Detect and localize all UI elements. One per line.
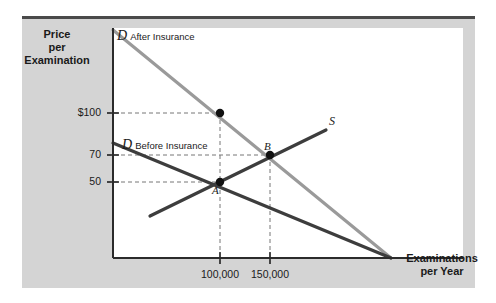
demand-after-caption: After Insurance: [127, 31, 194, 42]
demand-before-caption: Before Insurance: [132, 140, 207, 151]
y-tick-label-100: $100: [59, 106, 101, 118]
x-axis-title-line-2: per Year: [392, 265, 492, 278]
y-tick-label-70: 70: [59, 148, 101, 160]
y-axis-title: Price per Examination: [6, 28, 108, 67]
demand-before-symbol: D: [122, 137, 132, 152]
supply-curve-label: S: [329, 114, 335, 129]
supply-demand-figure: Price per Examination Examinations per Y…: [0, 0, 496, 303]
y-tick-label-50: 50: [59, 175, 101, 187]
x-tick-label-150000: 150,000: [240, 268, 300, 280]
equilibrium-label-a: A: [212, 184, 219, 196]
equilibrium-label-b: B: [264, 140, 271, 152]
x-axis-title-line-1: Examinations: [392, 252, 492, 265]
y-axis-title-line-3: Examination: [6, 54, 108, 67]
demand-after-insurance-label: DAfter Insurance: [117, 26, 195, 44]
demand-after-symbol: D: [117, 28, 127, 43]
price-100-point: [216, 109, 224, 117]
demand-before-insurance-label: DBefore Insurance: [122, 135, 207, 153]
demand-curve-before-insurance: [113, 143, 391, 258]
y-axis-title-line-2: per: [6, 41, 108, 54]
y-axis-title-line-1: Price: [6, 28, 108, 41]
equilibrium-point-b: [266, 151, 274, 159]
x-axis-title: Examinations per Year: [392, 252, 492, 278]
